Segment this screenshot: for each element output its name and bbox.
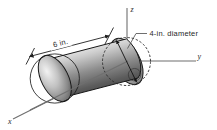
figure-container: 6 in. 4-in. diameter z y x [0, 0, 217, 130]
diameter-label: 4-in. diameter [150, 29, 199, 38]
x-axis-label: x [7, 117, 12, 126]
cylinder-diagram-svg: 6 in. 4-in. diameter z y x [0, 0, 217, 130]
y-axis-label: y [197, 52, 202, 61]
